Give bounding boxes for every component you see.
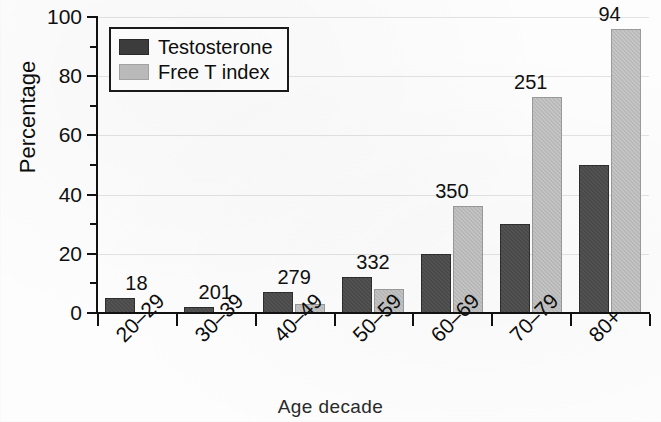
bar-value-label: 279 — [255, 266, 334, 289]
y-tick-minor — [90, 282, 96, 284]
y-tick-label: 100 — [20, 5, 82, 29]
gridline — [97, 135, 649, 136]
bar-value-label: 332 — [334, 251, 413, 274]
bar-value-label: 350 — [412, 180, 491, 203]
y-tick-minor — [90, 223, 96, 225]
x-tick — [176, 314, 178, 326]
bar — [421, 254, 451, 313]
bar — [500, 224, 530, 313]
x-tick — [255, 314, 257, 326]
legend-swatch-icon-free-t-index — [119, 64, 149, 80]
y-tick-label: 0 — [20, 301, 82, 325]
bar — [342, 277, 372, 313]
legend-swatch-icon-testosterone — [119, 39, 149, 55]
x-tick — [649, 314, 651, 326]
y-tick-label: 20 — [20, 242, 82, 266]
y-axis-title: Percentage — [15, 27, 41, 207]
y-tick-major — [87, 134, 96, 136]
legend-item-testosterone: Testosterone — [119, 34, 273, 59]
legend-item-free-t-index: Free T index — [119, 59, 273, 84]
x-tick — [97, 314, 99, 326]
chart-legend: Testosterone Free T index — [109, 27, 289, 92]
x-tick — [491, 314, 493, 326]
bar-value-label: 94 — [570, 3, 649, 26]
bar — [532, 97, 562, 313]
y-tick-major — [87, 312, 96, 314]
x-axis-line — [96, 312, 650, 314]
legend-label-testosterone: Testosterone — [158, 37, 273, 57]
bar-value-label: 201 — [176, 281, 255, 304]
x-axis-title: Age decade — [0, 396, 661, 418]
bar — [611, 29, 641, 313]
y-axis-line — [96, 16, 98, 314]
y-tick-major — [87, 16, 96, 18]
x-tick — [570, 314, 572, 326]
y-tick-minor — [90, 46, 96, 48]
bar-chart-figure: 020406080100 20–2930–3940–4950–5960–6970… — [0, 0, 661, 422]
bar — [579, 165, 609, 313]
x-tick — [334, 314, 336, 326]
y-tick-minor — [90, 164, 96, 166]
y-tick-major — [87, 194, 96, 196]
bar-value-label: 251 — [491, 71, 570, 94]
legend-label-free-t-index: Free T index — [158, 62, 270, 82]
y-tick-minor — [90, 105, 96, 107]
y-tick-major — [87, 75, 96, 77]
bar-value-label: 18 — [97, 272, 176, 295]
y-tick-major — [87, 253, 96, 255]
gridline — [97, 17, 649, 18]
gridline — [97, 195, 649, 196]
x-tick — [412, 314, 414, 326]
